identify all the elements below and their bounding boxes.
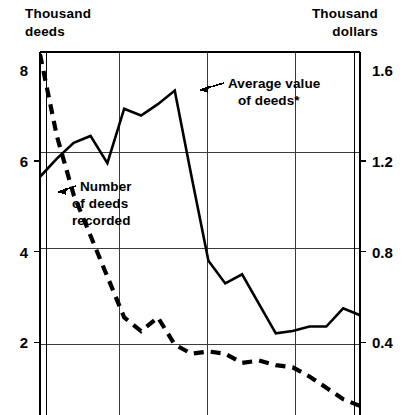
left-tick-label: 4 [20,244,29,261]
chart-container: Thousand deeds Thousand dollars 8642 1.6… [0,0,403,415]
annotation-average-line2: of deeds* [238,93,300,108]
left-axis-title-line1: Thousand [25,6,91,21]
right-axis-title-line2: dollars [332,24,378,39]
annotation-number-line3: recorded [72,213,131,228]
left-tick-label: 6 [20,153,28,170]
right-tick-label: 1.2 [372,153,393,170]
left-axis-title-line2: deeds [25,24,65,39]
right-tick-label: 1.6 [372,62,393,79]
annotation-number-line1: Number [80,179,132,194]
annotation-average-line1: Average value [228,76,321,91]
left-tick-label: 8 [20,62,28,79]
right-tick-label: 0.8 [372,244,393,261]
deeds-line-chart: Thousand deeds Thousand dollars 8642 1.6… [0,0,403,415]
right-axis-title-line1: Thousand [312,6,378,21]
annotation-number-line2: of deeds [72,196,128,211]
right-tick-label: 0.4 [372,334,394,351]
left-tick-label: 2 [20,334,28,351]
